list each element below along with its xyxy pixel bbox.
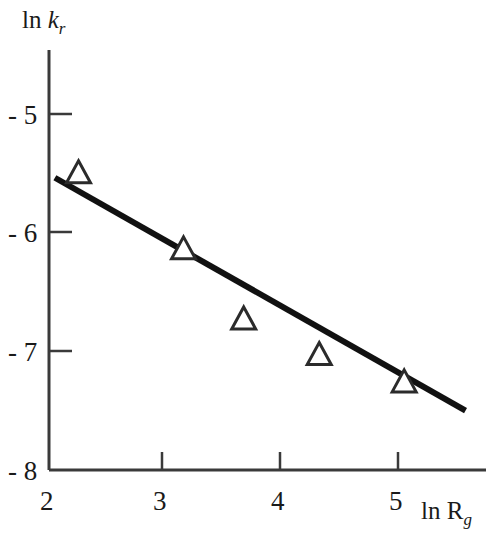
- y-tick-label--5: - 5: [8, 100, 37, 130]
- data-point-markers: [67, 161, 417, 392]
- y-tick-label--6: - 6: [8, 218, 37, 248]
- y-axis-label: ln kr: [22, 6, 66, 38]
- x-tick-label-3: 3: [153, 486, 167, 516]
- y-axis-label-subscript: r: [59, 19, 66, 38]
- chart-figure: ln kr - 5 - 6 - 7 - 8 2 3 4 5 ln Rg: [0, 0, 492, 538]
- x-axis-label-subscript: g: [463, 510, 472, 529]
- x-tick-label-4: 4: [271, 486, 285, 516]
- data-point-marker: [67, 161, 91, 183]
- y-axis-label-prefix: ln: [22, 6, 48, 33]
- y-tick-label--7: - 7: [8, 337, 37, 367]
- x-axis-label: ln Rg: [421, 497, 472, 529]
- data-point-marker: [307, 343, 331, 365]
- scatter-plot-svg: ln kr - 5 - 6 - 7 - 8 2 3 4 5 ln Rg: [0, 0, 492, 538]
- x-tick-label-5: 5: [389, 486, 403, 516]
- y-tick-label--8: - 8: [8, 456, 37, 486]
- x-tick-label-2: 2: [40, 486, 54, 516]
- x-axis-label-prefix: ln R: [421, 497, 464, 524]
- data-point-marker: [232, 307, 256, 329]
